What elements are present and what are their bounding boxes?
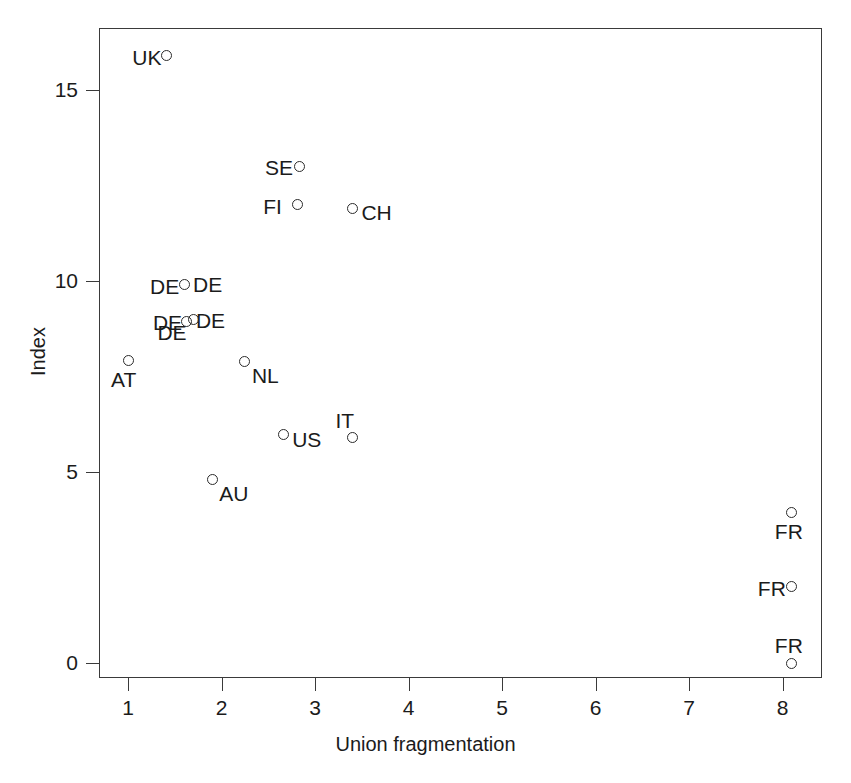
scatter-plot-figure: 051015 12345678 UKSEFICHDEDEDEDEDEATNLUS… [0, 0, 851, 783]
x-tick-mark [502, 678, 503, 691]
data-point-label: NL [252, 365, 279, 386]
data-point-marker [294, 161, 305, 172]
data-point-marker [786, 507, 797, 518]
data-point-label: FR [775, 635, 803, 656]
y-tick-mark [86, 281, 99, 282]
y-tick-label: 10 [0, 270, 78, 291]
x-tick-label: 3 [285, 697, 345, 718]
y-axis-label: Index [27, 292, 50, 412]
x-tick-label: 4 [379, 697, 439, 718]
data-point-label: FR [775, 521, 803, 542]
data-point-marker [188, 314, 199, 325]
data-point-label: US [292, 429, 321, 450]
data-point-label: UK [132, 47, 161, 68]
x-tick-mark [409, 678, 410, 691]
x-tick-mark [596, 678, 597, 691]
data-point-label: DE [150, 276, 179, 297]
x-tick-mark [689, 678, 690, 691]
x-tick-label: 7 [659, 697, 719, 718]
x-tick-label: 2 [192, 697, 252, 718]
data-point-label: DE [193, 274, 222, 295]
y-tick-label: 15 [0, 79, 78, 100]
data-point-label: CH [361, 202, 391, 223]
data-point-marker [123, 355, 134, 366]
data-point-marker [161, 50, 172, 61]
y-tick-mark [86, 663, 99, 664]
y-tick-mark [86, 472, 99, 473]
data-point-label: DE [196, 310, 225, 331]
y-tick-mark [86, 90, 99, 91]
data-point-marker [347, 203, 358, 214]
x-tick-mark [128, 678, 129, 691]
data-point-marker [347, 432, 358, 443]
x-tick-mark [315, 678, 316, 691]
data-point-marker [179, 279, 190, 290]
data-point-label: AU [219, 483, 248, 504]
data-point-label: DE [157, 322, 186, 343]
data-point-label: FI [263, 196, 282, 217]
data-point-label: SE [265, 157, 293, 178]
x-axis-label: Union fragmentation [0, 733, 851, 756]
x-tick-label: 1 [98, 697, 158, 718]
x-tick-label: 8 [753, 697, 813, 718]
x-tick-label: 6 [566, 697, 626, 718]
x-tick-mark [783, 678, 784, 691]
data-point-marker [292, 199, 303, 210]
y-tick-label: 5 [0, 461, 78, 482]
y-tick-label: 0 [0, 652, 78, 673]
data-point-marker [786, 658, 797, 669]
data-point-label: IT [335, 410, 354, 431]
x-tick-label: 5 [472, 697, 532, 718]
x-tick-mark [222, 678, 223, 691]
data-point-label: AT [111, 369, 136, 390]
plot-area [99, 28, 822, 678]
data-point-label: FR [758, 578, 786, 599]
data-point-marker [207, 474, 218, 485]
